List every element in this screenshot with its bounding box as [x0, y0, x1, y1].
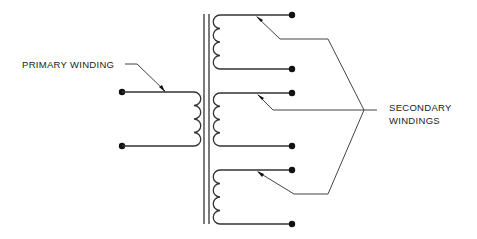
secondary-winding-2 [213, 90, 295, 149]
transformer-core [204, 14, 209, 224]
transformer-diagram: PRIMARY WINDING SECONDARY WINDINGS [0, 0, 477, 239]
primary-leader-line [125, 64, 165, 92]
secondary-winding-3 [213, 167, 295, 227]
secondary-windings-label-line2: WINDINGS [389, 115, 440, 126]
primary-coil [122, 92, 201, 146]
secondary-winding-1 [213, 12, 295, 72]
secondary-windings-label-line1: SECONDARY [389, 102, 452, 113]
secondary-leader-lines [256, 16, 377, 194]
primary-winding-label: PRIMARY WINDING [22, 59, 114, 70]
primary-winding [119, 89, 201, 149]
